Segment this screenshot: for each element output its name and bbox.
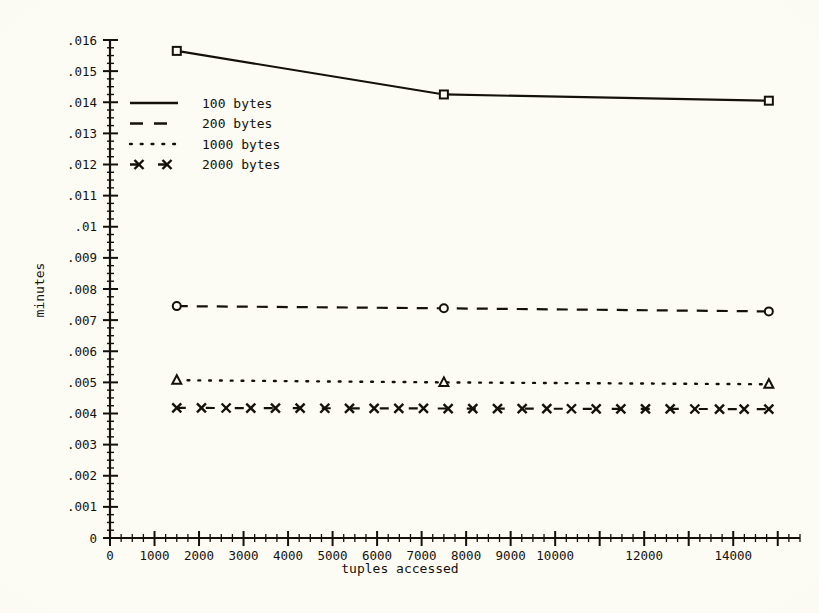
line-chart: 0.001.002.003.004.005.006.007.008.009.01… xyxy=(0,0,819,613)
y-tick-label: .012 xyxy=(67,157,97,172)
series-1000-bytes xyxy=(172,375,773,388)
legend-item-200-bytes: 200 bytes xyxy=(130,116,272,131)
legend-label: 100 bytes xyxy=(202,96,272,111)
y-tick-label: .011 xyxy=(67,188,97,203)
x-tick-label: 14000 xyxy=(714,548,752,563)
data-point-x xyxy=(246,404,255,413)
data-point-x xyxy=(740,405,749,414)
series-line xyxy=(177,306,769,311)
chart-figure: 0.001.002.003.004.005.006.007.008.009.01… xyxy=(0,0,819,613)
data-point-x xyxy=(592,404,601,413)
y-tick-label: .015 xyxy=(67,64,97,79)
data-point-x xyxy=(542,404,551,413)
series-line xyxy=(177,380,769,384)
data-point-x xyxy=(715,405,724,414)
data-point-x xyxy=(394,404,403,413)
y-tick-label: .004 xyxy=(67,406,97,421)
axis-lines xyxy=(110,40,800,538)
y-tick-label: .003 xyxy=(67,437,97,452)
y-tick-label: .005 xyxy=(67,375,97,390)
y-axis-tick-labels: 0.001.002.003.004.005.006.007.008.009.01… xyxy=(67,33,97,546)
y-tick-label: .008 xyxy=(67,282,97,297)
data-point-circle xyxy=(173,302,181,310)
y-tick-label: .009 xyxy=(67,250,97,265)
legend-item-2000-bytes: 2000 bytes xyxy=(130,157,280,172)
x-tick-label: 9000 xyxy=(496,548,526,563)
y-tick-label: .01 xyxy=(74,219,97,234)
data-point-square xyxy=(173,47,181,55)
y-tick-label: .002 xyxy=(67,468,97,483)
legend-label: 200 bytes xyxy=(202,116,272,131)
y-tick-label: .016 xyxy=(67,33,97,48)
data-point-square xyxy=(440,90,448,98)
x-tick-label: 10000 xyxy=(536,548,574,563)
y-tick-label: .014 xyxy=(67,95,97,110)
data-point-circle xyxy=(440,304,448,312)
data-point-x xyxy=(690,405,699,414)
x-axis-title: tuples accessed xyxy=(341,561,458,576)
x-tick-label: 3000 xyxy=(228,548,258,563)
data-point-triangle xyxy=(439,377,448,386)
y-tick-label: 0 xyxy=(89,531,97,546)
x-tick-label: 2000 xyxy=(184,548,214,563)
y-tick-label: .007 xyxy=(67,313,97,328)
data-point-x xyxy=(222,404,231,413)
data-point-triangle xyxy=(172,375,181,384)
data-point-triangle xyxy=(764,379,773,388)
y-tick-label: .001 xyxy=(67,499,97,514)
chart-legend: 100 bytes200 bytes1000 bytes2000 bytes xyxy=(130,96,280,173)
data-point-x xyxy=(567,404,576,413)
legend-item-1000-bytes: 1000 bytes xyxy=(130,137,280,152)
x-tick-label: 0 xyxy=(106,548,114,563)
data-point-x xyxy=(370,404,379,413)
x-tick-label: 1000 xyxy=(139,548,169,563)
series-line xyxy=(177,51,769,101)
y-tick-label: .006 xyxy=(67,344,97,359)
x-tick-label: 12000 xyxy=(625,548,663,563)
y-tick-label: .013 xyxy=(67,126,97,141)
series-200-bytes xyxy=(173,302,773,315)
y-axis-title: minutes xyxy=(32,263,47,318)
x-tick-label: 4000 xyxy=(273,548,303,563)
series-2000-bytes xyxy=(172,403,773,413)
data-point-x xyxy=(419,404,428,413)
data-point-circle xyxy=(765,307,773,315)
legend-label: 2000 bytes xyxy=(202,157,280,172)
data-point-square xyxy=(765,97,773,105)
legend-item-100-bytes: 100 bytes xyxy=(130,96,272,111)
legend-label: 1000 bytes xyxy=(202,137,280,152)
data-point-x xyxy=(197,403,206,412)
